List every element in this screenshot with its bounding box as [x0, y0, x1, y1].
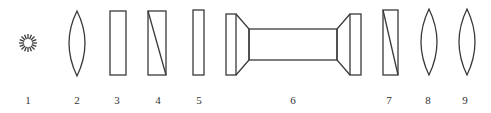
component-label-7: 7	[386, 93, 392, 107]
convex-lens-9-icon	[459, 9, 475, 75]
component-label-5: 5	[196, 93, 202, 107]
component-label-8: 8	[425, 93, 431, 107]
tube-6-icon	[226, 14, 361, 75]
component-label-6: 6	[290, 93, 296, 107]
component-label-2: 2	[74, 93, 80, 107]
component-label-3: 3	[114, 93, 120, 107]
light-source-icon	[19, 34, 37, 52]
convex-lens-2-icon	[69, 11, 85, 76]
thin-plate-5-icon	[193, 10, 204, 75]
plate-3-icon	[110, 11, 126, 75]
diagonal-plate-4-icon	[148, 11, 166, 75]
diagonal-plate-7-icon	[383, 10, 398, 75]
component-label-1: 1	[25, 93, 31, 107]
component-label-9: 9	[462, 93, 468, 107]
component-label-4: 4	[155, 93, 161, 107]
convex-lens-8-icon	[421, 9, 437, 75]
